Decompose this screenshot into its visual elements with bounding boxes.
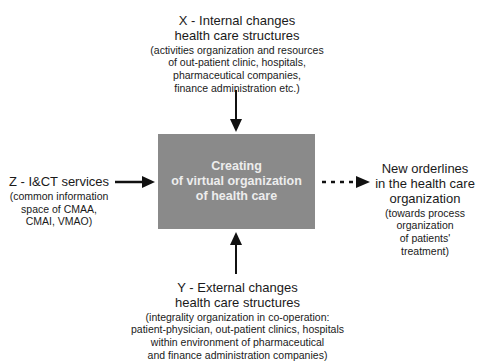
arrow-bottom-to-center — [230, 232, 242, 274]
arrow-center-to-right-dashed — [322, 176, 370, 188]
arrow-left-to-center — [115, 176, 155, 188]
arrows-layer — [0, 0, 483, 364]
arrow-top-to-center — [230, 90, 242, 132]
